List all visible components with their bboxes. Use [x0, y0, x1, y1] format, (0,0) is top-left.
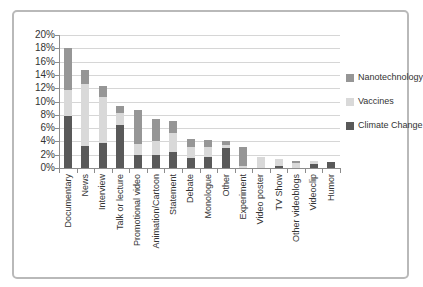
- bar-segment-nanotechnology-statement: [169, 121, 177, 133]
- bar-segment-nanotechnology-documentary: [64, 48, 72, 90]
- x-axis-tick: [129, 169, 130, 173]
- bar-segment-nanotechnology-interview: [99, 86, 107, 97]
- bar-segment-climate-change-talk-or-lecture: [116, 125, 124, 168]
- bar-segment-climate-change-documentary: [64, 116, 72, 168]
- bar-segment-nanotechnology-promotional-video: [134, 110, 142, 144]
- bar-segment-nanotechnology-news: [81, 70, 89, 83]
- bar-segment-nanotechnology-other: [222, 141, 230, 144]
- x-axis-tick: [200, 169, 201, 173]
- bar-segment-vaccines-animation-cartoon: [152, 141, 160, 156]
- y-axis-label: 8%: [25, 110, 55, 120]
- bar-segment-vaccines-debate: [187, 147, 195, 158]
- chart-figure: 0%2%4%6%8%10%12%14%16%18%20%DocumentaryN…: [12, 10, 409, 279]
- bar-segment-nanotechnology-other-videoblogs: [292, 161, 300, 162]
- gridline: [59, 75, 340, 76]
- bar-segment-climate-change-interview: [99, 143, 107, 168]
- y-axis-label: 12%: [25, 83, 55, 93]
- legend-label-climate-change: Climate Change: [358, 120, 423, 131]
- x-axis-label-documentary: Documentary: [62, 174, 73, 228]
- legend-label-vaccines: Vaccines: [358, 96, 394, 107]
- bar-segment-climate-change-videoclip: [310, 164, 318, 168]
- y-axis-label: 0%: [25, 163, 55, 173]
- x-axis-tick: [182, 169, 183, 173]
- x-axis-tick: [322, 169, 323, 173]
- x-axis-label-other: Other: [220, 174, 231, 197]
- x-axis-label-other-videoblogs: Other videoblogs: [291, 174, 302, 242]
- gridline: [59, 62, 340, 63]
- legend-swatch-nanotechnology: [346, 74, 354, 82]
- x-axis-tick: [270, 169, 271, 173]
- y-axis-label: 6%: [25, 123, 55, 133]
- x-axis-label-talk-or-lecture: Talk or lecture: [115, 174, 126, 230]
- bar-segment-vaccines-experiment: [239, 166, 247, 168]
- y-axis-label: 4%: [25, 136, 55, 146]
- x-axis-label-tv-show: TV Show: [273, 174, 284, 211]
- gridline: [59, 48, 340, 49]
- x-axis-tick: [77, 169, 78, 173]
- x-axis-label-videoclip: Videoclip: [308, 174, 319, 210]
- x-axis-tick: [147, 169, 148, 173]
- stacked-bar-chart: 0%2%4%6%8%10%12%14%16%18%20%DocumentaryN…: [14, 12, 407, 277]
- legend-item-nanotechnology: Nanotechnology: [346, 72, 423, 83]
- x-axis-tick: [305, 169, 306, 173]
- x-axis-tick: [217, 169, 218, 173]
- bar-segment-climate-change-debate: [187, 158, 195, 168]
- y-axis-label: 14%: [25, 70, 55, 80]
- bar-segment-vaccines-statement: [169, 133, 177, 152]
- x-axis-tick: [59, 169, 60, 173]
- legend-swatch-climate-change: [346, 122, 354, 130]
- y-axis-label: 2%: [25, 150, 55, 160]
- y-axis-label: 16%: [25, 57, 55, 67]
- x-axis-label-interview: Interview: [97, 174, 108, 210]
- bar-segment-vaccines-videoclip: [310, 161, 318, 164]
- bar-segment-climate-change-animation-cartoon: [152, 155, 160, 168]
- bar-segment-vaccines-other: [222, 145, 230, 148]
- x-axis-tick: [287, 169, 288, 173]
- x-axis-label-monologue: Monologue: [203, 174, 214, 219]
- bar-segment-climate-change-other: [222, 148, 230, 168]
- bar-segment-nanotechnology-debate: [187, 139, 195, 147]
- y-axis-label: 18%: [25, 43, 55, 53]
- bar-segment-vaccines-news: [81, 84, 89, 147]
- bar-segment-nanotechnology-experiment: [239, 147, 247, 166]
- x-axis-tick: [340, 169, 341, 173]
- bar-segment-climate-change-humor: [327, 162, 335, 168]
- legend-swatch-vaccines: [346, 98, 354, 106]
- legend-item-climate-change: Climate Change: [346, 120, 423, 131]
- y-axis-label: 10%: [25, 97, 55, 107]
- x-axis-label-animation-cartoon: Animation/Cartoon: [150, 174, 161, 249]
- bar-segment-vaccines-tv-show: [275, 159, 283, 166]
- gridline: [59, 35, 340, 36]
- x-axis-tick: [235, 169, 236, 173]
- x-axis-label-debate: Debate: [185, 174, 196, 203]
- x-axis-label-humor: Humor: [326, 174, 337, 201]
- bar-segment-nanotechnology-animation-cartoon: [152, 119, 160, 141]
- legend-item-vaccines: Vaccines: [346, 96, 394, 107]
- bar-segment-climate-change-news: [81, 146, 89, 168]
- x-axis-tick: [252, 169, 253, 173]
- x-axis-tick: [164, 169, 165, 173]
- x-axis-tick: [94, 169, 95, 173]
- bar-segment-vaccines-other-videoblogs: [292, 163, 300, 168]
- x-axis-label-promotional-video: Promotional video: [133, 174, 144, 246]
- bar-segment-nanotechnology-monologue: [204, 140, 212, 147]
- bar-segment-climate-change-promotional-video: [134, 155, 142, 168]
- x-axis-label-video-poster: Video poster: [255, 174, 266, 224]
- bar-segment-vaccines-monologue: [204, 147, 212, 156]
- bar-segment-vaccines-interview: [99, 97, 107, 144]
- x-axis-label-statement: Statement: [168, 174, 179, 215]
- bar-segment-vaccines-promotional-video: [134, 144, 142, 155]
- bar-segment-vaccines-talk-or-lecture: [116, 113, 124, 124]
- bar-segment-vaccines-video-poster: [257, 157, 265, 168]
- bar-segment-climate-change-monologue: [204, 157, 212, 168]
- y-axis-label: 20%: [25, 30, 55, 40]
- bar-segment-climate-change-statement: [169, 152, 177, 168]
- bar-segment-vaccines-documentary: [64, 90, 72, 116]
- x-axis-label-news: News: [80, 174, 91, 197]
- bar-segment-climate-change-tv-show: [275, 166, 283, 168]
- legend-label-nanotechnology: Nanotechnology: [358, 72, 423, 83]
- y-axis-line: [59, 35, 60, 168]
- x-axis-label-experiment: Experiment: [238, 174, 249, 220]
- x-axis-tick: [112, 169, 113, 173]
- bar-segment-nanotechnology-talk-or-lecture: [116, 106, 124, 113]
